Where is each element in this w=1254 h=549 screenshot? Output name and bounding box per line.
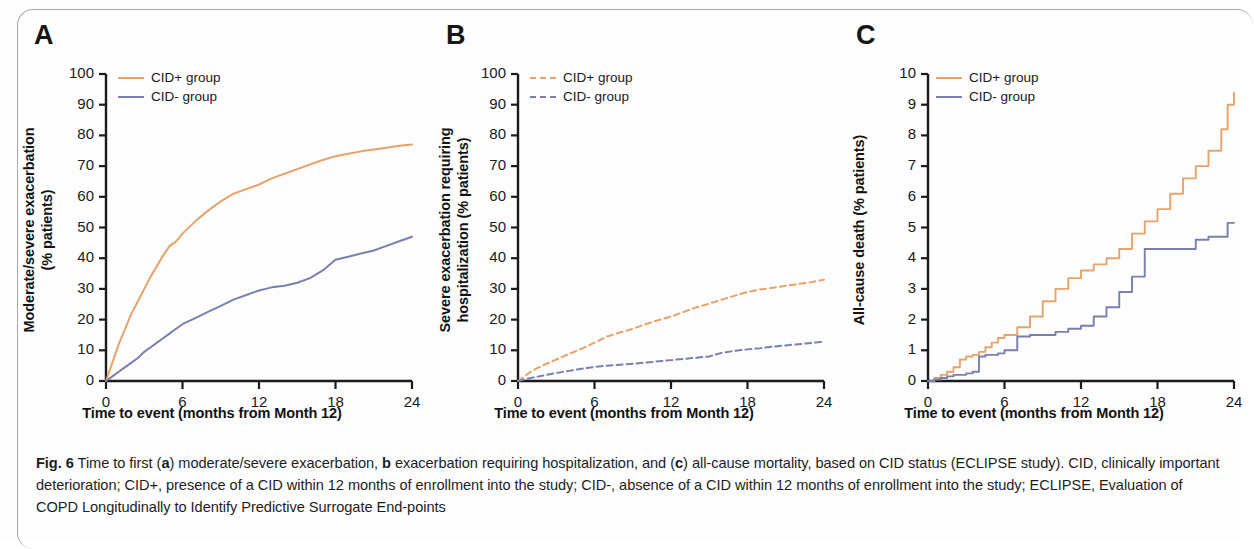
series-line-cid-plus bbox=[518, 280, 824, 381]
y-tick-label: 20 bbox=[44, 310, 94, 327]
y-tick-label: 3 bbox=[866, 279, 916, 296]
y-tick-label: 5 bbox=[866, 218, 916, 235]
caption-bold-part: c bbox=[675, 455, 683, 471]
x-tick-label: 6 bbox=[575, 393, 615, 410]
y-tick-label: 40 bbox=[456, 248, 506, 265]
y-tick-label: 50 bbox=[456, 218, 506, 235]
series-line-cid-minus bbox=[518, 342, 824, 381]
y-tick-label: 60 bbox=[456, 187, 506, 204]
y-tick-label: 30 bbox=[456, 279, 506, 296]
caption-text-part: Time to first ( bbox=[74, 455, 162, 471]
y-tick-label: 80 bbox=[456, 125, 506, 142]
panel-b: B Severe exacerbation requiring hospital… bbox=[418, 0, 830, 440]
legend-item-cid-plus: CID+ group bbox=[530, 68, 632, 87]
legend-item-cid-minus: CID- group bbox=[118, 87, 220, 106]
x-tick-label: 24 bbox=[1214, 393, 1254, 410]
panel-c: C All-cause death (% patients) CID+ grou… bbox=[828, 0, 1240, 440]
y-tick-label: 30 bbox=[44, 279, 94, 296]
y-tick-label: 10 bbox=[456, 340, 506, 357]
legend-swatch-icon bbox=[936, 77, 962, 79]
y-tick-label: 80 bbox=[44, 125, 94, 142]
y-tick-label: 40 bbox=[44, 248, 94, 265]
legend-item-cid-minus: CID- group bbox=[936, 87, 1038, 106]
legend-label: CID+ group bbox=[969, 70, 1038, 85]
series-line-cid-minus bbox=[928, 223, 1234, 381]
series-line-cid-minus bbox=[106, 237, 412, 381]
legend-swatch-icon bbox=[936, 96, 962, 98]
legend-label: CID- group bbox=[969, 89, 1035, 104]
y-tick-label: 0 bbox=[866, 371, 916, 388]
y-tick-label: 70 bbox=[456, 156, 506, 173]
legend-label: CID- group bbox=[563, 89, 629, 104]
y-tick-label: 1 bbox=[866, 340, 916, 357]
y-tick-label: 90 bbox=[456, 95, 506, 112]
x-tick-label: 0 bbox=[908, 393, 948, 410]
x-tick-label: 12 bbox=[1061, 393, 1101, 410]
y-tick-label: 20 bbox=[456, 310, 506, 327]
panel-c-legend: CID+ groupCID- group bbox=[936, 68, 1038, 106]
x-tick-label: 12 bbox=[239, 393, 279, 410]
y-tick-label: 7 bbox=[866, 156, 916, 173]
panel-c-x-axis-title: Time to event (months from Month 12) bbox=[828, 405, 1240, 421]
legend-label: CID- group bbox=[151, 89, 217, 104]
panel-a-legend: CID+ groupCID- group bbox=[118, 68, 220, 106]
legend-swatch-icon bbox=[530, 77, 556, 79]
figure-caption: Fig. 6 Time to first (a) moderate/severe… bbox=[36, 452, 1228, 519]
x-tick-label: 0 bbox=[86, 393, 126, 410]
legend-swatch-icon bbox=[530, 96, 556, 98]
y-tick-label: 4 bbox=[866, 248, 916, 265]
y-tick-label: 0 bbox=[44, 371, 94, 388]
y-tick-label: 100 bbox=[456, 64, 506, 81]
legend-item-cid-plus: CID+ group bbox=[936, 68, 1038, 87]
panel-b-x-axis-title: Time to event (months from Month 12) bbox=[418, 405, 830, 421]
y-tick-label: 50 bbox=[44, 218, 94, 235]
caption-text-part: exacerbation requiring hospitalization, … bbox=[391, 455, 675, 471]
x-tick-label: 6 bbox=[985, 393, 1025, 410]
caption-text-part: ) all-cause mortality, based on CID stat… bbox=[683, 455, 1060, 471]
caption-bold-part: b bbox=[382, 455, 391, 471]
x-tick-label: 18 bbox=[1138, 393, 1178, 410]
y-tick-label: 70 bbox=[44, 156, 94, 173]
legend-item-cid-minus: CID- group bbox=[530, 87, 632, 106]
legend-item-cid-plus: CID+ group bbox=[118, 68, 220, 87]
y-tick-label: 9 bbox=[866, 95, 916, 112]
y-tick-label: 60 bbox=[44, 187, 94, 204]
series-line-cid-plus bbox=[928, 92, 1234, 381]
panel-a-x-axis-title: Time to event (months from Month 12) bbox=[6, 405, 418, 421]
x-tick-label: 12 bbox=[651, 393, 691, 410]
legend-label: CID+ group bbox=[151, 70, 220, 85]
y-tick-label: 90 bbox=[44, 95, 94, 112]
x-tick-label: 0 bbox=[498, 393, 538, 410]
y-tick-label: 10 bbox=[44, 340, 94, 357]
x-tick-label: 18 bbox=[316, 393, 356, 410]
x-tick-label: 6 bbox=[163, 393, 203, 410]
y-tick-label: 100 bbox=[44, 64, 94, 81]
panel-a: A Moderate/severe exacerbation (% patien… bbox=[6, 0, 418, 440]
y-tick-label: 0 bbox=[456, 371, 506, 388]
panel-b-legend: CID+ groupCID- group bbox=[530, 68, 632, 106]
legend-swatch-icon bbox=[118, 77, 144, 79]
x-tick-label: 18 bbox=[728, 393, 768, 410]
y-tick-label: 2 bbox=[866, 310, 916, 327]
caption-text-part: ) moderate/severe exacerbation, bbox=[169, 455, 382, 471]
y-tick-label: 8 bbox=[866, 125, 916, 142]
legend-label: CID+ group bbox=[563, 70, 632, 85]
panels-row: A Moderate/severe exacerbation (% patien… bbox=[0, 0, 1240, 440]
legend-swatch-icon bbox=[118, 96, 144, 98]
y-tick-label: 6 bbox=[866, 187, 916, 204]
caption-bold-part: Fig. 6 bbox=[36, 455, 74, 471]
y-tick-label: 10 bbox=[866, 64, 916, 81]
